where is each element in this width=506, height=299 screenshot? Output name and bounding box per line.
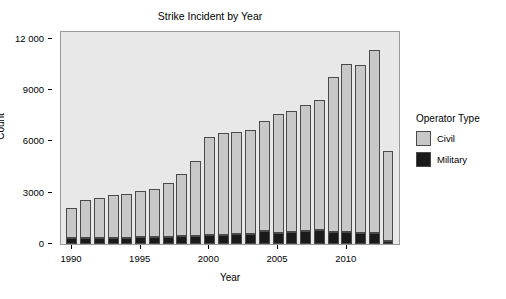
bar-segment-military xyxy=(121,238,132,244)
bar-1994[interactable] xyxy=(121,32,132,244)
bar-segment-civil xyxy=(383,151,394,241)
bar-2009[interactable] xyxy=(328,32,339,244)
bar-segment-military xyxy=(190,236,201,244)
plot-area xyxy=(60,31,400,245)
bar-segment-military xyxy=(163,237,174,244)
bar-segment-military xyxy=(286,232,297,244)
bar-segment-military xyxy=(369,233,380,244)
bar-segment-civil xyxy=(300,105,311,232)
bar-segment-civil xyxy=(245,130,256,233)
bar-segment-military xyxy=(300,231,311,244)
bar-segment-civil xyxy=(176,174,187,236)
x-tick-mark xyxy=(277,245,278,249)
bar-1993[interactable] xyxy=(108,32,119,244)
bar-segment-civil xyxy=(94,198,105,238)
bar-segment-civil xyxy=(286,111,297,232)
x-tick-mark xyxy=(346,245,347,249)
bar-segment-military xyxy=(218,235,229,244)
bar-1992[interactable] xyxy=(94,32,105,244)
y-tick-label: 3000 xyxy=(23,186,44,197)
bar-2004[interactable] xyxy=(259,32,270,244)
bar-2013[interactable] xyxy=(383,32,394,244)
bar-2003[interactable] xyxy=(245,32,256,244)
y-tick-label: 12 000 xyxy=(15,32,44,43)
bar-segment-civil xyxy=(231,132,242,235)
bar-2007[interactable] xyxy=(300,32,311,244)
bar-segment-civil xyxy=(314,100,325,230)
y-tick-label: 6000 xyxy=(23,135,44,146)
bar-2008[interactable] xyxy=(314,32,325,244)
bar-segment-military xyxy=(245,234,256,244)
bar-1996[interactable] xyxy=(149,32,160,244)
bar-segment-civil xyxy=(273,114,284,233)
legend-entries: CivilMilitary xyxy=(416,131,504,167)
legend-label: Civil xyxy=(437,133,455,144)
bar-2000[interactable] xyxy=(204,32,215,244)
bar-2006[interactable] xyxy=(286,32,297,244)
bar-segment-civil xyxy=(135,191,146,237)
bar-segment-civil xyxy=(66,208,77,238)
y-axis-title: Count xyxy=(0,113,6,140)
x-tick-mark xyxy=(71,245,72,249)
bar-segment-military xyxy=(94,238,105,244)
bar-segment-military xyxy=(80,238,91,244)
bar-segment-military xyxy=(383,241,394,244)
bar-segment-civil xyxy=(80,200,91,238)
bar-segment-military xyxy=(231,234,242,244)
y-axis: 030006000900012 000 xyxy=(0,31,52,245)
bar-2010[interactable] xyxy=(341,32,352,244)
bar-segment-civil xyxy=(190,161,201,236)
bar-segment-military xyxy=(259,231,270,244)
bar-segment-civil xyxy=(355,65,366,233)
legend-swatch xyxy=(416,152,431,167)
bar-segment-civil xyxy=(163,183,174,237)
bar-segment-civil xyxy=(218,133,229,235)
bar-2005[interactable] xyxy=(273,32,284,244)
bar-1997[interactable] xyxy=(163,32,174,244)
bar-2012[interactable] xyxy=(369,32,380,244)
y-tick-mark xyxy=(48,140,52,141)
bar-segment-military xyxy=(341,232,352,244)
x-axis: 19901995200020052010 xyxy=(60,245,400,275)
x-tick-label: 1990 xyxy=(60,253,81,264)
y-tick-mark xyxy=(48,89,52,90)
bar-segment-military xyxy=(149,237,160,244)
bar-1990[interactable] xyxy=(66,32,77,244)
bar-segment-military xyxy=(66,238,77,244)
bar-2002[interactable] xyxy=(231,32,242,244)
y-tick-mark xyxy=(48,38,52,39)
legend-label: Military xyxy=(437,154,467,165)
y-tick-label: 9000 xyxy=(23,84,44,95)
bar-segment-civil xyxy=(328,77,339,232)
chart-title: Strike Incident by Year xyxy=(0,10,420,22)
x-tick-label: 2000 xyxy=(198,253,219,264)
x-tick-mark xyxy=(140,245,141,249)
bar-segment-civil xyxy=(108,195,119,238)
bar-segment-military xyxy=(204,235,215,244)
legend-item-civil[interactable]: Civil xyxy=(416,131,504,146)
bar-segment-civil xyxy=(259,121,270,231)
x-tick-label: 1995 xyxy=(129,253,150,264)
x-tick-label: 2005 xyxy=(267,253,288,264)
bar-1991[interactable] xyxy=(80,32,91,244)
x-axis-title: Year xyxy=(60,272,400,283)
y-tick-label: 0 xyxy=(39,238,44,249)
legend-item-military[interactable]: Military xyxy=(416,152,504,167)
bar-1999[interactable] xyxy=(190,32,201,244)
y-tick-mark xyxy=(48,243,52,244)
bar-segment-military xyxy=(135,237,146,244)
bar-segment-military xyxy=(273,233,284,244)
bar-2011[interactable] xyxy=(355,32,366,244)
legend-title: Operator Type xyxy=(416,113,504,124)
bar-segment-military xyxy=(328,232,339,244)
bar-segment-military xyxy=(355,233,366,244)
x-tick-mark xyxy=(208,245,209,249)
bar-segment-military xyxy=(108,238,119,244)
bar-segment-military xyxy=(314,230,325,244)
bar-2001[interactable] xyxy=(218,32,229,244)
y-tick-mark xyxy=(48,192,52,193)
bar-segment-civil xyxy=(369,50,380,233)
bar-1995[interactable] xyxy=(135,32,146,244)
bar-1998[interactable] xyxy=(176,32,187,244)
bar-segment-civil xyxy=(149,189,160,237)
